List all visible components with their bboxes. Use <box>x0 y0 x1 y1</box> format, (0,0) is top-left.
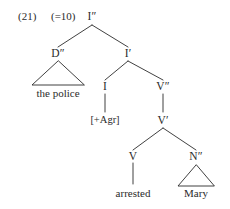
branch-ibar-to-i <box>105 61 128 80</box>
terminal-agr-feature: [+Agr] <box>90 115 119 126</box>
node-i: I <box>103 81 107 93</box>
node-vp: V″ <box>156 81 169 93</box>
branch-vbar-to-np <box>163 128 196 150</box>
node-np: N″ <box>189 151 202 163</box>
node-i-bar: I′ <box>125 48 132 60</box>
node-v: V <box>129 151 137 163</box>
node-v-bar: V′ <box>157 115 168 127</box>
branch-ip-to-dp <box>58 25 92 47</box>
syntax-tree-lines <box>0 0 230 209</box>
node-ip: I″ <box>88 11 97 23</box>
example-number: (21) <box>18 11 36 22</box>
node-dp: D″ <box>51 48 64 60</box>
branch-vbar-to-v <box>133 128 163 150</box>
branch-ibar-to-vp <box>128 61 163 80</box>
terminal-object: Mary <box>184 188 208 199</box>
triangle-dp-the-police <box>32 61 84 85</box>
branch-ip-to-ibar <box>92 25 128 47</box>
terminal-verb: arrested <box>116 188 151 199</box>
terminal-subject: the police <box>36 88 79 99</box>
example-reference: (=10) <box>51 11 76 22</box>
triangle-np-mary <box>178 165 214 186</box>
